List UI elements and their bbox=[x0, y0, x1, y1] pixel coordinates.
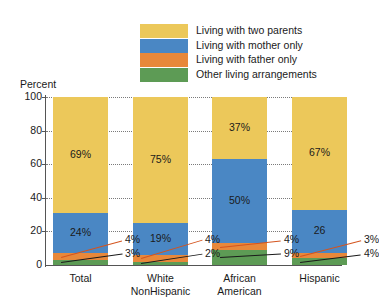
x-axis-category-label-line: Hispanic bbox=[274, 272, 366, 285]
legend-swatch-icon bbox=[140, 68, 188, 82]
bar-3: 50%37% bbox=[212, 97, 267, 265]
legend-item-label: Living with father only bbox=[196, 52, 297, 67]
bar-segment-label: 26 bbox=[292, 224, 347, 236]
bar-1: 24%69% bbox=[53, 97, 108, 265]
bar-segment-label: 67% bbox=[292, 146, 347, 158]
y-axis-tick-labels: 100806040200 bbox=[14, 97, 42, 265]
y-axis-tick-label: 60 bbox=[16, 157, 42, 169]
segment-callout-label: 3% bbox=[364, 233, 379, 245]
legend-item: Living with father only bbox=[140, 53, 350, 67]
x-axis-category-label-line: Total bbox=[35, 272, 127, 285]
segment-callout-label: 4% bbox=[364, 247, 379, 259]
legend-swatch-icon bbox=[140, 24, 188, 38]
bar-segment-label: 19% bbox=[133, 232, 188, 244]
segment-callout-label: 9% bbox=[284, 247, 299, 259]
bar-segment-label: 69% bbox=[53, 148, 108, 160]
y-axis-tickmark bbox=[42, 97, 46, 98]
x-axis-category-label: AfricanAmerican bbox=[194, 272, 286, 298]
y-axis-tick-label: 20 bbox=[16, 224, 42, 236]
y-axis-tick-label: 0 bbox=[16, 258, 42, 270]
y-axis-tick-label: 40 bbox=[16, 191, 42, 203]
bar-segment: 37% bbox=[212, 97, 267, 159]
legend-item: Living with mother only bbox=[140, 39, 350, 53]
x-axis-category-label-line: African bbox=[194, 272, 286, 285]
plot-area: 24%69%19%75%50%37%2667%4%3%4%2%4%9%3%4% bbox=[46, 97, 340, 265]
bar-segment: 67% bbox=[292, 97, 347, 210]
y-axis-tick-label: 100 bbox=[16, 90, 42, 102]
bar-4: 2667% bbox=[292, 97, 347, 265]
legend-item-label: Other living arrangements bbox=[196, 67, 317, 82]
y-axis-tickmark bbox=[42, 231, 46, 232]
bar-segment-label: 24% bbox=[53, 226, 108, 238]
segment-callout-label: 4% bbox=[205, 233, 220, 245]
segment-callout-label: 2% bbox=[205, 247, 220, 259]
y-axis-tickmark bbox=[42, 198, 46, 199]
segment-callout-label: 4% bbox=[284, 233, 299, 245]
y-axis-tickmark bbox=[42, 131, 46, 132]
legend-item: Living with two parents bbox=[140, 24, 350, 38]
bar-segment: 75% bbox=[133, 97, 188, 223]
bar-segment-label: 75% bbox=[133, 153, 188, 165]
segment-callout-label: 4% bbox=[125, 233, 140, 245]
bar-segment-label: 37% bbox=[212, 121, 267, 133]
segment-callout-label: 3% bbox=[125, 247, 140, 259]
bar-segment: 19% bbox=[133, 223, 188, 255]
legend-item-label: Living with mother only bbox=[196, 38, 303, 53]
bar-2: 19%75% bbox=[133, 97, 188, 265]
x-axis-category-label: Hispanic bbox=[274, 272, 366, 285]
legend-swatch-icon bbox=[140, 53, 188, 67]
x-axis-category-label-line: American bbox=[194, 285, 286, 298]
legend-item: Other living arrangements bbox=[140, 68, 350, 82]
bar-segment: 50% bbox=[212, 159, 267, 243]
x-axis-line bbox=[45, 265, 342, 266]
x-axis-category-label: Total bbox=[35, 272, 127, 285]
legend-swatch-icon bbox=[140, 39, 188, 53]
chart-legend: Living with two parentsLiving with mothe… bbox=[140, 24, 350, 82]
bar-segment: 69% bbox=[53, 97, 108, 213]
y-axis-tick-label: 80 bbox=[16, 124, 42, 136]
y-axis-title: Percent bbox=[20, 78, 56, 90]
legend-item-label: Living with two parents bbox=[196, 23, 302, 38]
y-axis-tickmark bbox=[42, 164, 46, 165]
bar-segment-label: 50% bbox=[212, 194, 267, 206]
